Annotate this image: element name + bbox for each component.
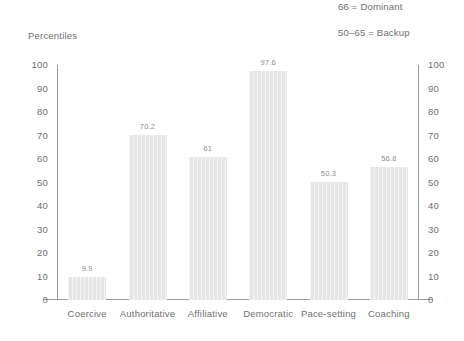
bar-group: 61 <box>189 65 227 300</box>
y-tick-right-10: 10 <box>428 272 439 282</box>
bar-group: 50.3 <box>310 65 348 300</box>
y-tick-left-50: 50 <box>37 178 48 188</box>
y-tick-left-20: 20 <box>37 248 48 258</box>
plot-area: 0102030405060708090100 01020304050607080… <box>57 65 419 300</box>
bar-value-label: 70.2 <box>140 122 155 131</box>
bar-group: 97.6 <box>249 65 287 300</box>
category-label-democratic: Democratic <box>243 308 293 319</box>
y-tick-left-100: 100 <box>32 60 48 70</box>
bar-group: 9.9 <box>68 65 106 300</box>
category-label-coaching: Coaching <box>368 308 410 319</box>
y-tick-left-40: 40 <box>37 201 48 211</box>
bar-coercive[interactable] <box>68 277 106 300</box>
bar-value-label: 61 <box>203 144 212 153</box>
y-tick-left-0: 0 <box>43 295 48 305</box>
category-label-pace-setting: Pace-setting <box>301 308 356 319</box>
bar-authoritative[interactable] <box>129 135 167 300</box>
y-tick-right-90: 90 <box>428 84 439 94</box>
bar-coaching[interactable] <box>370 167 408 300</box>
bar-value-label: 50.3 <box>321 169 336 178</box>
y-tick-right-0: 0 <box>428 295 433 305</box>
bar-value-label: 9.9 <box>82 264 93 273</box>
chart-annotations: 66 = Dominant 50–65 = Backup <box>338 2 462 54</box>
x-axis-categories: CoerciveAuthoritativeAffiliativeDemocrat… <box>57 308 419 328</box>
y-tick-left-90: 90 <box>37 84 48 94</box>
y-tick-right-80: 80 <box>428 107 439 117</box>
y-axis-title: Percentiles <box>28 30 77 41</box>
bar-pace-setting[interactable] <box>310 182 348 300</box>
y-tick-left-10: 10 <box>37 272 48 282</box>
category-label-affiliative: Affiliative <box>188 308 228 319</box>
y-tick-left-80: 80 <box>37 107 48 117</box>
y-tick-right-60: 60 <box>428 154 439 164</box>
y-tick-left-60: 60 <box>37 154 48 164</box>
bar-value-label: 56.8 <box>381 154 396 163</box>
annotation-backup: 50–65 = Backup <box>338 28 462 38</box>
annotation-dominant: 66 = Dominant <box>338 2 462 12</box>
category-label-authoritative: Authoritative <box>120 308 175 319</box>
y-tick-right-50: 50 <box>428 178 439 188</box>
bars-layer: 9.970.26197.650.356.8 <box>57 65 419 300</box>
y-tick-right-100: 100 <box>428 60 444 70</box>
bar-group: 70.2 <box>129 65 167 300</box>
category-label-coercive: Coercive <box>68 308 107 319</box>
bar-affiliative[interactable] <box>189 157 227 300</box>
y-tick-right-30: 30 <box>428 225 439 235</box>
bar-group: 56.8 <box>370 65 408 300</box>
bar-democratic[interactable] <box>249 71 287 300</box>
y-tick-right-70: 70 <box>428 131 439 141</box>
y-tick-right-40: 40 <box>428 201 439 211</box>
chart-page: 66 = Dominant 50–65 = Backup Percentiles… <box>0 0 464 341</box>
y-tick-right-20: 20 <box>428 248 439 258</box>
y-tick-left-30: 30 <box>37 225 48 235</box>
y-tick-left-70: 70 <box>37 131 48 141</box>
bar-value-label: 97.6 <box>260 58 275 67</box>
